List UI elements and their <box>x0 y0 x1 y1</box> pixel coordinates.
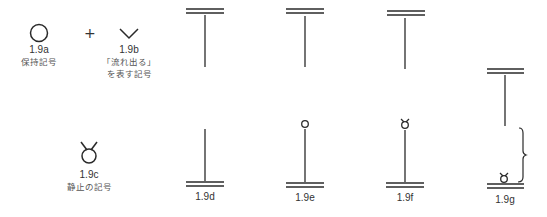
flow-out-symbol-v-icon <box>120 29 138 38</box>
figure-1-9e-bottom-staff <box>286 121 324 187</box>
figure-1-9f-top-staff <box>387 11 425 69</box>
stillness-symbol-icon <box>81 142 97 163</box>
figure-label-1-9d: 1.9d <box>185 190 225 203</box>
figure-label-1-9e: 1.9e <box>285 191 325 204</box>
caption-stillness-symbol: 静止の記号 <box>59 181 119 193</box>
figure-label-1-9g: 1.9g <box>485 193 525 206</box>
plus-sign: + <box>84 25 96 41</box>
figure-label-1-9a: 1.9a <box>19 43 59 56</box>
figure-1-9d-top-staff <box>186 9 224 67</box>
caption-hold-symbol: 保持記号 <box>9 56 69 68</box>
figure-1-9e-top-staff <box>286 9 324 67</box>
figure-label-1-9f: 1.9f <box>385 191 425 204</box>
hold-circle-icon <box>302 121 309 128</box>
stillness-icon <box>401 119 409 128</box>
hold-symbol-circle-icon <box>31 25 48 42</box>
notation-diagram: 1.9a 保持記号 + 1.9b 「流れ出る」 を表す記号 1.9c 静止の記号… <box>0 0 547 217</box>
figure-label-1-9b: 1.9b <box>109 43 149 56</box>
figure-1-9f-bottom-staff <box>386 119 424 187</box>
stillness-icon <box>500 173 508 182</box>
caption-flow-out-line2: を表す記号 <box>99 68 159 80</box>
figure-1-9g-staff <box>487 69 526 188</box>
brace-icon <box>518 128 526 182</box>
figure-1-9d-bottom-staff <box>186 129 224 186</box>
caption-flow-out-line1: 「流れ出る」 <box>99 56 159 68</box>
figure-label-1-9c: 1.9c <box>69 168 109 181</box>
